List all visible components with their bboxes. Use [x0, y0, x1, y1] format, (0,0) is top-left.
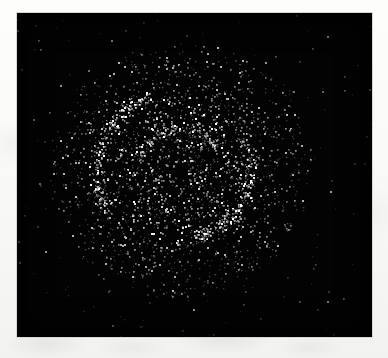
figure-page	[0, 0, 388, 358]
figure-caption	[0, 0, 1, 1]
photon-event-scatter-canvas	[17, 13, 372, 337]
detector-image-frame	[17, 13, 372, 337]
figure-title	[0, 0, 1, 1]
